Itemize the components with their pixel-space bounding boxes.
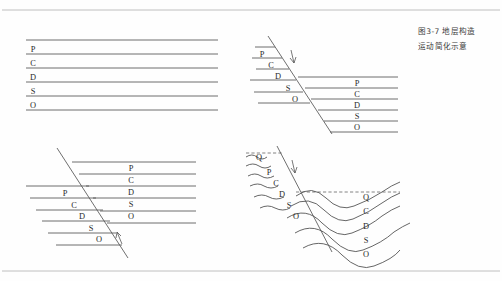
document-page: P C D S O: [0, 0, 502, 281]
stratum-label-d: D: [354, 101, 360, 110]
fault-displacement-arrow-down: [291, 160, 297, 173]
stratum-label-p: P: [129, 164, 134, 173]
stratum-label-s: S: [286, 84, 291, 93]
stratum-label-o: O: [363, 250, 369, 259]
stratum-label-d: D: [279, 190, 285, 199]
stratum-label-d: D: [363, 222, 369, 231]
stratum-label-c: C: [363, 207, 369, 216]
stratum-label-c: C: [273, 179, 279, 188]
folded-bed-line: [295, 223, 410, 252]
stratum-label-c: C: [128, 176, 134, 185]
stratum-label-d: D: [128, 188, 134, 197]
stratum-label-q: Q: [363, 193, 369, 202]
fault-displacement-arrow-up: [116, 232, 122, 244]
panel-top-left: P C D S O: [26, 40, 218, 110]
stratum-label-s: S: [355, 112, 360, 121]
folded-bed-line: [260, 206, 290, 210]
stratum-label-o: O: [30, 101, 36, 110]
folded-bed-line: [296, 182, 400, 208]
stratum-label-q: Q: [256, 153, 262, 162]
figure-caption-line-1: 图3-7 地层构造: [418, 25, 476, 36]
panel-bottom-right: Q P C D S O Q C D S O: [246, 146, 410, 268]
figure-caption-line-2: 运动简化示意: [418, 40, 468, 51]
folded-bed-line: [303, 243, 400, 267]
stratum-label-s: S: [129, 200, 134, 209]
stratum-label-d: D: [79, 212, 85, 221]
fault-plane-line: [268, 36, 332, 134]
stratum-label-c: C: [30, 59, 36, 68]
stratum-label-s: S: [31, 87, 36, 96]
stratum-label-s: S: [89, 224, 94, 233]
stratum-label-p: P: [31, 45, 36, 54]
panel-bottom-left: P C D S O P C D S O: [26, 148, 196, 258]
stratum-label-s: S: [287, 201, 292, 210]
stratum-label-d: D: [275, 72, 281, 81]
stratum-label-o: O: [128, 212, 134, 221]
stratum-label-c: C: [268, 61, 274, 70]
stratum-label-o: O: [293, 212, 299, 221]
panel-top-right: P C D S O P C D S O: [250, 36, 398, 134]
stratum-label-d: D: [30, 73, 36, 82]
stratum-label-o: O: [354, 123, 360, 132]
stratum-label-p: P: [63, 189, 68, 198]
stratum-label-o: O: [292, 95, 298, 104]
stratum-label-c: C: [354, 90, 360, 99]
stratum-label-p: P: [260, 50, 265, 59]
fault-displacement-arrow-down: [290, 50, 296, 63]
stratum-label-p: P: [355, 79, 360, 88]
folded-bed-line: [291, 193, 400, 221]
fault-plane-line: [277, 146, 332, 252]
stratum-label-s: S: [364, 236, 369, 245]
stratum-label-o: O: [96, 235, 102, 244]
stratum-label-p: P: [267, 168, 272, 177]
fault-plane-line: [57, 148, 128, 258]
stratum-label-c: C: [71, 201, 77, 210]
